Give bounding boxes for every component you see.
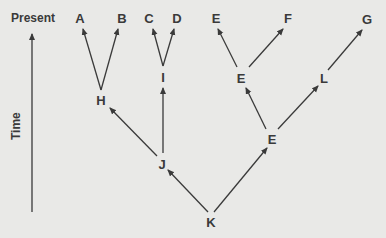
edge-K-E — [214, 148, 267, 212]
edge-Elow-L — [278, 86, 318, 129]
node-E-mid: E — [237, 71, 246, 86]
node-L: L — [320, 71, 328, 86]
present-label: Present — [11, 11, 55, 25]
phylogenetic-tree-diagram: Present Time A B C D E F G H — [0, 0, 386, 238]
edge-I-D — [163, 29, 174, 66]
node-E-top: E — [212, 11, 221, 26]
node-G: G — [362, 12, 372, 27]
edge-I-C — [153, 29, 163, 66]
node-E-low: E — [268, 132, 277, 147]
edge-K-J — [168, 170, 208, 212]
node-H: H — [96, 93, 105, 108]
node-D: D — [172, 11, 181, 26]
node-I: I — [161, 70, 165, 85]
edge-J-H — [110, 108, 157, 156]
node-K: K — [206, 215, 216, 230]
edge-H-B — [101, 29, 118, 90]
time-label: Time — [9, 112, 23, 140]
node-A: A — [75, 11, 85, 26]
node-F: F — [284, 11, 292, 26]
edge-H-A — [83, 29, 101, 90]
node-C: C — [144, 11, 154, 26]
node-J: J — [158, 157, 165, 172]
edge-Elow-Emid — [246, 88, 266, 129]
tree-canvas: Present Time A B C D E F G H — [0, 0, 386, 238]
edge-L-G — [328, 30, 362, 70]
edge-Emid-F — [249, 29, 283, 67]
edge-Emid-Etop — [218, 29, 237, 67]
node-B: B — [117, 11, 126, 26]
